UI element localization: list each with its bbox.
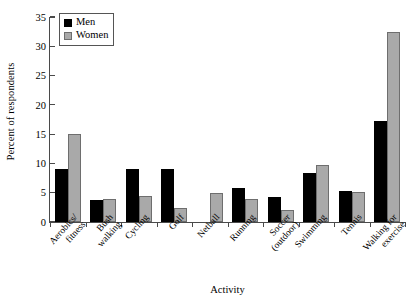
x-tick-mark <box>157 222 158 227</box>
bar-chart: Percent of respondents 35302520151050 Ae… <box>0 0 413 302</box>
legend-swatch-women-icon <box>64 32 72 40</box>
legend-label-men: Men <box>76 17 95 28</box>
bar-men <box>232 188 245 222</box>
x-tick-mark <box>50 222 51 227</box>
legend-item-men: Men <box>64 16 108 29</box>
legend-item-women: Women <box>64 29 108 42</box>
bar-group <box>263 17 299 222</box>
bar-group <box>192 17 228 222</box>
y-axis-title: Percent of respondents <box>0 0 22 222</box>
bar-group <box>228 17 264 222</box>
legend-label-women: Women <box>76 30 108 41</box>
bar-group <box>50 17 86 222</box>
x-tick-mark <box>370 222 371 227</box>
bar-women <box>68 134 81 222</box>
bar-men <box>55 169 68 222</box>
y-tick-label: 15 <box>36 129 51 140</box>
y-tick-label: 10 <box>36 159 51 170</box>
bar-group <box>299 17 335 222</box>
bar-group <box>157 17 193 222</box>
y-tick-label: 30 <box>36 42 51 53</box>
bar-men <box>161 169 174 222</box>
x-tick-mark <box>192 222 193 227</box>
x-axis-title: Activity <box>50 284 405 295</box>
plot-area: 35302520151050 <box>50 17 405 222</box>
bar-men <box>374 121 387 222</box>
y-tick-label: 20 <box>36 100 51 111</box>
bar-women <box>387 32 400 222</box>
x-tick-mark <box>334 222 335 227</box>
x-axis-title-text: Activity <box>210 284 244 295</box>
bar-group <box>334 17 370 222</box>
bar-groups <box>50 17 405 222</box>
bar-men <box>303 173 316 222</box>
legend-swatch-men-icon <box>64 19 72 27</box>
bar-men <box>126 169 139 222</box>
bar-group <box>121 17 157 222</box>
x-tick-mark <box>228 222 229 227</box>
legend: Men Women <box>59 13 114 46</box>
bar-group <box>370 17 406 222</box>
bar-group <box>86 17 122 222</box>
y-tick-label: 35 <box>36 12 51 23</box>
y-axis-title-text: Percent of respondents <box>6 62 17 160</box>
x-tick-mark <box>263 222 264 227</box>
y-tick-label: 25 <box>36 71 51 82</box>
